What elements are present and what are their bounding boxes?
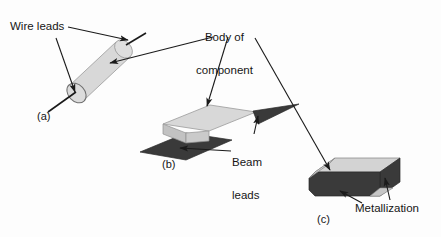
beam-lead-rear — [253, 104, 299, 124]
component-b-beam-lead-package — [140, 104, 299, 160]
caption-panel-b: (b) — [162, 159, 175, 170]
label-body-of-component-line1: Body of — [196, 32, 253, 43]
chip-front-face — [309, 172, 380, 196]
wire-lead-near — [48, 92, 76, 112]
label-body-of-component-line2: component — [196, 65, 253, 76]
label-metallization: Metallization — [355, 203, 419, 214]
caption-panel-c: (c) — [317, 214, 330, 225]
label-wire-leads: Wire leads — [10, 21, 64, 32]
caption-panel-a: (a) — [37, 111, 50, 122]
label-beam-leads-line2: leads — [232, 190, 262, 201]
label-body-of-component: Body of component — [196, 10, 253, 87]
wire-lead-far — [126, 33, 146, 45]
leader-wire-leads-to-far-lead — [68, 27, 128, 40]
leader-body-to-panel-c — [255, 38, 330, 170]
label-beam-leads-line1: Beam — [232, 157, 262, 168]
body-front-face-b — [186, 131, 209, 143]
component-c-chip-metallization — [309, 158, 400, 196]
body-top-face-b — [163, 105, 256, 131]
leader-wire-leads-to-near-lead — [56, 38, 75, 92]
label-beam-leads: Beam leads — [232, 135, 262, 212]
component-a-axial-cylinder — [48, 33, 146, 112]
